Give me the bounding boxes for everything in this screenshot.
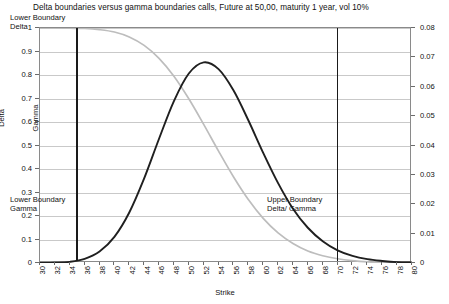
annotation-upper-boundary-delta-gamma: Upper Boundary Delta/ Gamma [267,195,322,214]
x-axis-tick-mark [247,262,248,265]
annotation-line-2: Gamma [10,204,65,213]
x-axis-tick-label: 80 [410,266,419,274]
x-axis-tick-mark [322,262,323,265]
x-axis-tick-label: 70 [336,266,345,274]
x-axis-tick-mark [307,262,308,265]
x-axis-tick-mark [113,262,114,265]
plot-area [39,27,411,262]
y-axis-right-tick-mark [411,56,415,57]
x-axis-tick-mark [218,262,219,265]
x-axis-tick-label: 34 [68,266,77,274]
boundary-line-lower-boundary [76,28,78,261]
x-axis-tick-label: 78 [395,266,404,274]
y-axis-left-title: Delta [0,109,6,127]
y-axis-right-tick-label: 0.08 [420,23,435,32]
chart-container: Delta boundaries versus gamma boundaries… [0,0,449,304]
x-axis-tick-label: 64 [291,266,300,274]
y-axis-right-title: Gamma [31,104,40,131]
y-axis-right-tick-mark [411,174,415,175]
x-axis-tick-label: 54 [216,266,225,274]
annotation-line-1: Lower Boundary [10,13,65,22]
x-axis-tick-label: 38 [97,266,106,274]
boundary-line-upper-boundary [337,28,339,261]
x-axis-tick-label: 74 [365,266,374,274]
x-axis: 3032343638404244464850525456586062646668… [39,262,411,304]
x-axis-tick-label: 48 [172,266,181,274]
x-axis-tick-mark [188,262,189,265]
annotation-line-2: Delta [10,22,65,31]
y-axis-right-tick-label: 0 [420,258,424,267]
x-axis-tick-label: 56 [231,266,240,274]
x-axis-tick-label: 32 [53,266,62,274]
x-axis-tick-mark [39,262,40,265]
y-axis-left-tick-label: 0.5 [21,140,32,149]
annotation-lower-boundary-delta: Lower Boundary Delta [10,13,65,32]
y-axis-right-tick-mark [411,86,415,87]
y-axis-right-tick-label: 0.06 [420,81,435,90]
x-axis-tick-label: 42 [127,266,136,274]
x-axis-tick-mark [203,262,204,265]
y-axis-right: 00.010.020.030.040.050.060.070.08 [411,27,449,262]
annotation-lower-boundary-gamma: Lower Boundary Gamma [10,195,65,214]
annotation-line-1: Upper Boundary [267,195,322,204]
y-axis-right-tick-label: 0.02 [420,199,435,208]
y-axis-left: 00.10.20.30.40.50.60.70.80.91 [0,27,39,262]
x-axis-tick-label: 40 [112,266,121,274]
x-axis-tick-mark [262,262,263,265]
y-axis-left-tick-label: 0.1 [21,234,32,243]
x-axis-tick-label: 46 [157,266,166,274]
x-axis-tick-mark [128,262,129,265]
y-axis-left-tick-label: 0.9 [21,46,32,55]
x-axis-tick-mark [99,262,100,265]
y-axis-right-tick-mark [411,27,415,28]
x-axis-tick-mark [232,262,233,265]
x-axis-tick-mark [84,262,85,265]
x-axis-tick-label: 50 [187,266,196,274]
y-axis-right-tick-label: 0.05 [420,111,435,120]
x-axis-tick-mark [396,262,397,265]
y-axis-right-tick-mark [411,233,415,234]
chart-title: Delta boundaries versus gamma boundaries… [33,3,433,13]
y-axis-right-tick-mark [411,115,415,116]
y-axis-right-tick-mark [411,145,415,146]
x-axis-tick-label: 72 [350,266,359,274]
x-axis-tick-label: 44 [142,266,151,274]
series-line-delta [40,28,412,263]
y-axis-right-tick-mark [411,203,415,204]
x-axis-tick-mark [351,262,352,265]
x-axis-tick-mark [158,262,159,265]
y-axis-right-tick-label: 0.04 [420,140,435,149]
y-axis-left-tick-label: 0.7 [21,93,32,102]
x-axis-tick-label: 68 [321,266,330,274]
x-axis-tick-label: 66 [306,266,315,274]
y-axis-right-tick-label: 0.01 [420,228,435,237]
x-axis-tick-mark [366,262,367,265]
x-axis-tick-label: 30 [38,266,47,274]
x-axis-tick-label: 36 [83,266,92,274]
x-axis-tick-label: 58 [246,266,255,274]
y-axis-left-tick-label: 0.8 [21,70,32,79]
x-axis-tick-mark [381,262,382,265]
x-axis-tick-mark [411,262,412,265]
x-axis-tick-mark [292,262,293,265]
y-axis-right-tick-label: 0.03 [420,169,435,178]
annotation-line-1: Lower Boundary [10,195,65,204]
x-axis-tick-mark [69,262,70,265]
x-axis-tick-mark [54,262,55,265]
x-axis-tick-mark [143,262,144,265]
y-axis-right-tick-label: 0.07 [420,52,435,61]
annotation-line-2: Delta/ Gamma [267,204,322,213]
x-axis-tick-label: 52 [202,266,211,274]
x-axis-tick-mark [277,262,278,265]
chart-curves [40,28,412,263]
x-axis-tick-mark [337,262,338,265]
x-axis-tick-label: 60 [261,266,270,274]
x-axis-tick-label: 62 [276,266,285,274]
x-axis-tick-mark [173,262,174,265]
x-axis-title: Strike [39,288,411,297]
y-axis-left-tick-label: 0.4 [21,164,32,173]
y-axis-left-tick-label: 0 [28,258,32,267]
x-axis-tick-label: 76 [380,266,389,274]
